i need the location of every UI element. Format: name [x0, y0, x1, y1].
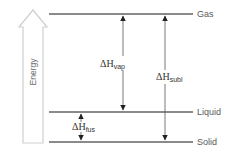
- energy-axis-label: Energy: [28, 58, 38, 86]
- level-solid: Solid: [49, 137, 217, 147]
- energy-axis-arrow: Energy: [19, 10, 47, 143]
- energy-diagram: Energy Gas Liquid Solid ΔHvap ΔHsubl ΔHf…: [0, 0, 234, 157]
- level-label-gas: Gas: [197, 9, 214, 19]
- level-label-solid: Solid: [197, 137, 217, 147]
- level-label-liquid: Liquid: [197, 107, 221, 117]
- transition-fus: ΔHfus: [72, 114, 102, 140]
- transition-subl: ΔHsubl: [154, 16, 194, 140]
- level-gas: Gas: [49, 9, 214, 19]
- level-liquid: Liquid: [49, 107, 221, 117]
- transition-vap: ΔHvap: [98, 16, 140, 110]
